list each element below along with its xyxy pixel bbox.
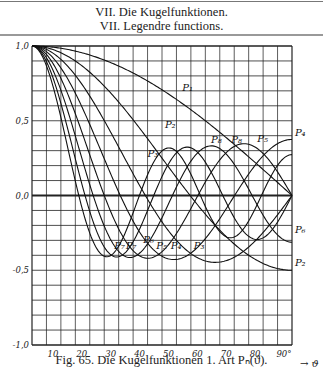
curve-label-p6: P₆ (294, 224, 306, 235)
y-tick-label: -0,5 (13, 265, 29, 275)
curve-label-p2: P₂ (164, 119, 176, 130)
y-tick-labels: 1,00,50,0-0,5-1,0 (13, 41, 30, 350)
legendre-chart: 1,00,50,0-0,5-1,0 102030405060708090° P₁… (0, 0, 323, 372)
curve-label-p3: P₃ (147, 148, 159, 159)
curve-label-p3: P₃ (193, 240, 205, 251)
grid (32, 46, 292, 345)
curve-label-p7: P₇ (125, 240, 137, 251)
y-tick-label: 0,0 (15, 191, 29, 201)
figure-caption: Fig. 65. Die Kugelfunktionen 1. Art Pₙ(ϑ… (0, 352, 323, 368)
curve-label-p4: P₄ (294, 127, 306, 138)
curve-label-p5: P₅ (256, 133, 268, 144)
curve-label-p6: P₆ (142, 234, 154, 245)
curve-label-p8: P₈ (230, 134, 242, 145)
curve-label-p1: P₁ (181, 82, 193, 93)
curve-label-p2: P₂ (294, 257, 306, 268)
curve-label-p5: P₅ (155, 240, 167, 251)
y-tick-label: 0,5 (15, 116, 29, 126)
curve-label-p7: P₇ (113, 240, 125, 251)
curve-label-p4: P₄ (170, 240, 182, 251)
y-tick-label: 1,0 (15, 41, 29, 51)
y-tick-label: -1,0 (13, 340, 30, 350)
curve-label-p8: P₈ (210, 134, 222, 145)
